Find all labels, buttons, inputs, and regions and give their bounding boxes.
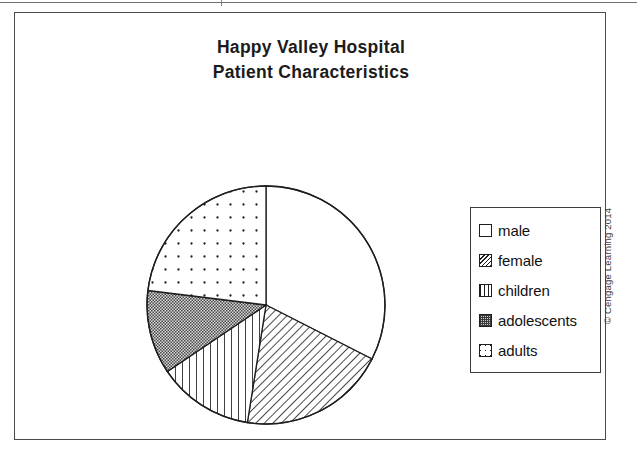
- legend-swatch-adults: [479, 344, 492, 357]
- chart-legend: malefemalechildrenadolescentsadults: [470, 207, 601, 373]
- page-top-rule: [0, 2, 637, 3]
- copyright-notice: © Cengage Learning 2014: [602, 174, 613, 324]
- legend-swatch-female: [479, 254, 492, 267]
- page-title: Happy Valley Hospital Patient Characteri…: [15, 35, 607, 85]
- legend-item-female[interactable]: female: [479, 245, 594, 275]
- legend-item-adolescents[interactable]: adolescents: [479, 305, 594, 335]
- legend-swatch-male: [479, 224, 492, 237]
- pie-slice-group: [147, 186, 385, 424]
- page-top-tick: [221, 0, 222, 6]
- legend-label-female: female: [498, 252, 542, 269]
- legend-item-male[interactable]: male: [479, 215, 594, 245]
- legend-swatch-children: [479, 284, 492, 297]
- chart-title-line-1: Happy Valley Hospital: [15, 35, 607, 60]
- legend-label-adults: adults: [498, 342, 537, 359]
- chart-title-line-2: Patient Characteristics: [15, 60, 607, 85]
- pie-chart: [133, 172, 399, 438]
- legend-item-children[interactable]: children: [479, 275, 594, 305]
- legend-label-children: children: [498, 282, 550, 299]
- pie-slice-adults[interactable]: [148, 186, 266, 305]
- pie-chart-svg: [133, 172, 399, 438]
- legend-item-adults[interactable]: adults: [479, 335, 594, 365]
- legend-label-male: male: [498, 222, 530, 239]
- legend-label-adolescents: adolescents: [498, 312, 577, 329]
- legend-swatch-adolescents: [479, 314, 492, 327]
- figure-frame: Happy Valley Hospital Patient Characteri…: [14, 12, 606, 440]
